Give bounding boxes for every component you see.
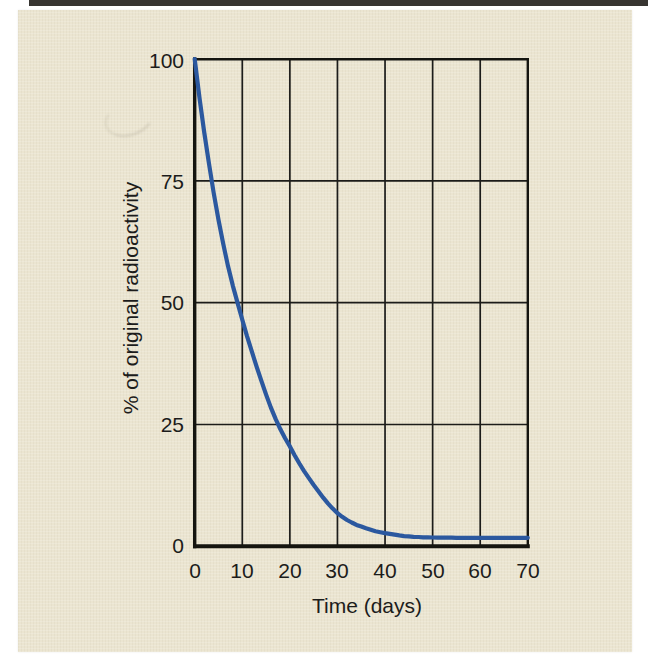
x-tick-label: 20 — [266, 558, 314, 584]
x-tick-label: 10 — [218, 558, 266, 584]
figure-panel — [18, 10, 632, 652]
x-tick-label: 70 — [504, 558, 552, 584]
y-tick-label: 100 — [122, 48, 184, 74]
x-tick-label: 50 — [409, 558, 457, 584]
paper-smudge — [100, 95, 158, 143]
y-tick-label: 25 — [122, 412, 184, 438]
x-tick-label: 30 — [313, 558, 361, 584]
x-tick-label: 40 — [361, 558, 409, 584]
y-tick-label: 0 — [122, 533, 184, 559]
scan-edge-mark — [29, 0, 648, 6]
x-axis-title: Time (days) — [312, 593, 422, 619]
x-tick-label: 0 — [171, 558, 219, 584]
x-tick-label: 60 — [456, 558, 504, 584]
y-axis-title: % of original radioactivity — [118, 182, 144, 414]
